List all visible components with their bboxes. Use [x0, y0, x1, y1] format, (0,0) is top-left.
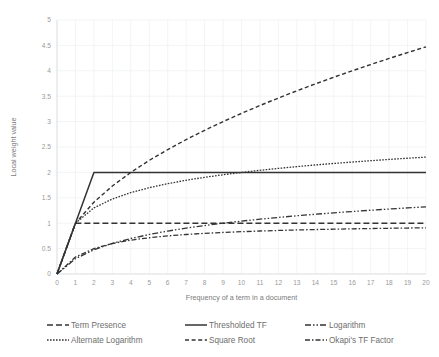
- y-tick-label: 2: [47, 169, 51, 176]
- y-tick-label: 1.5: [42, 194, 51, 201]
- x-axis-title: Frequency of a term in a document: [186, 293, 297, 302]
- x-axis-ticks: 01234567891011121314151617181920: [55, 279, 430, 286]
- chart-container: 00.511.522.533.544.550123456789101112131…: [0, 0, 439, 357]
- x-tick-label: 7: [184, 279, 188, 286]
- x-tick-label: 3: [111, 279, 115, 286]
- y-tick-label: 4: [47, 67, 51, 74]
- x-tick-label: 14: [312, 279, 320, 286]
- x-tick-label: 1: [74, 279, 78, 286]
- legend-label: Alternate Logarithm: [71, 336, 143, 345]
- x-tick-label: 0: [55, 279, 59, 286]
- x-tick-label: 13: [293, 279, 301, 286]
- legend-item[interactable]: Alternate Logarithm: [47, 336, 143, 345]
- legend-label: Square Root: [209, 336, 256, 345]
- gridlines: [57, 20, 426, 274]
- legend-label: Thresholded TF: [209, 321, 267, 330]
- legend-item[interactable]: Okapi's TF Factor: [305, 336, 394, 345]
- legend-item[interactable]: Term Presence: [47, 321, 127, 330]
- legend-item[interactable]: Square Root: [185, 336, 256, 345]
- y-tick-label: 3.5: [42, 93, 51, 100]
- y-tick-label: 3: [47, 118, 51, 125]
- x-tick-label: 20: [422, 279, 430, 286]
- y-tick-label: 5: [47, 16, 51, 23]
- x-tick-label: 10: [238, 279, 246, 286]
- x-tick-label: 4: [129, 279, 133, 286]
- x-tick-label: 12: [275, 279, 283, 286]
- y-axis-title: Local weight value: [9, 117, 18, 176]
- legend-label: Okapi's TF Factor: [329, 336, 394, 345]
- y-tick-label: 0.5: [42, 245, 51, 252]
- legend-label: Logarithm: [329, 321, 366, 330]
- line-chart: 00.511.522.533.544.550123456789101112131…: [0, 0, 439, 357]
- x-tick-label: 19: [404, 279, 412, 286]
- x-tick-label: 6: [166, 279, 170, 286]
- x-tick-label: 15: [330, 279, 338, 286]
- x-tick-label: 5: [147, 279, 151, 286]
- legend-item[interactable]: Thresholded TF: [185, 321, 267, 330]
- legend: Term PresenceThresholded TFLogarithmAlte…: [47, 321, 394, 345]
- legend-item[interactable]: Logarithm: [305, 321, 366, 330]
- y-axis-ticks: 00.511.522.533.544.55: [42, 16, 52, 277]
- x-tick-label: 9: [221, 279, 225, 286]
- y-tick-label: 1: [47, 220, 51, 227]
- y-tick-label: 4.5: [42, 42, 51, 49]
- legend-label: Term Presence: [71, 321, 127, 330]
- x-tick-label: 8: [203, 279, 207, 286]
- x-tick-label: 16: [349, 279, 357, 286]
- x-tick-label: 18: [385, 279, 393, 286]
- x-tick-label: 2: [92, 279, 96, 286]
- x-tick-label: 11: [257, 279, 264, 286]
- y-tick-label: 2.5: [42, 143, 51, 150]
- y-tick-label: 0: [47, 270, 51, 277]
- x-tick-label: 17: [367, 279, 375, 286]
